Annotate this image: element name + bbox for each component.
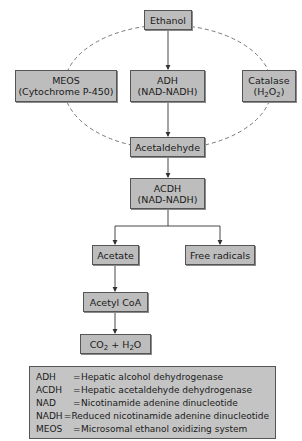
co2-h2o-label: CO2 + H2O [90,339,142,350]
adh-line2: (NAD-NADH) [138,86,198,97]
acdh-line2: (NAD-NADH) [138,194,198,205]
legend-row: ACDH=Hepatic acetaldehyde dehydrogenase [36,384,269,397]
legend-row: ADH=Hepatic alcohol dehydrogenase [36,371,269,384]
node-acetaldehyde: Acetaldehyde [130,137,205,157]
meos-line2: (Cytochrome P-450) [18,86,113,97]
adh-line1: ADH [157,75,178,86]
catalase-line1: Catalase [248,75,289,86]
acetyl-coa-label: Acetyl CoA [90,297,141,308]
node-ethanol: Ethanol [144,10,192,30]
ethanol-label: Ethanol [150,15,186,26]
acetate-label: Acetate [97,250,134,261]
acetaldehyde-label: Acetaldehyde [135,142,200,153]
node-meos: MEOS (Cytochrome P-450) [15,70,117,102]
catalase-line2: (H2O2) [254,86,285,97]
meos-line1: MEOS [52,75,80,86]
legend-box: ADH=Hepatic alcohol dehydrogenase ACDH=H… [29,366,276,439]
free-radicals-label: Free radicals [190,250,250,261]
node-acetate: Acetate [92,245,139,265]
node-acetyl-coa: Acetyl CoA [83,292,148,312]
node-acdh: ACDH (NAD-NADH) [130,178,205,209]
node-free-radicals: Free radicals [185,245,255,265]
node-catalase: Catalase (H2O2) [242,70,296,102]
node-adh: ADH (NAD-NADH) [130,70,205,102]
legend-row: MEOS=Microsomal ethanol oxidizing system [36,423,269,436]
acdh-line1: ACDH [154,183,181,194]
node-co2-h2o: CO2 + H2O [80,334,151,354]
legend-row: NAD=Nicotinamide adenine dinucleotide [36,397,269,410]
legend-row: NADH=Reduced nicotinamide adenine dinucl… [36,410,269,423]
